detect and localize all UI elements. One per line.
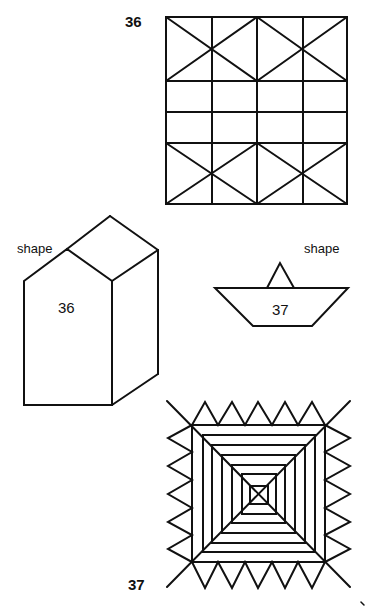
boat-number: 37 [272,302,289,317]
sawtooth-right [325,425,350,562]
grid-figure [166,17,347,204]
boat-shape-label: shape [304,242,339,255]
house-roof-eave [112,250,158,281]
square-pattern-number: 37 [128,577,145,592]
sawtooth-bottom [192,562,325,588]
line-drawings [0,0,366,607]
house-roof-ridge-right [110,216,158,250]
square-pattern-figure [167,401,350,588]
boat-sail [267,263,294,288]
stray-mark [361,602,364,605]
house-number: 36 [58,300,75,315]
house-roof-ridge-left [67,216,110,249]
grid-figure-number: 36 [125,14,142,29]
figure-sheet: 36 shape 36 shape 37 37 [0,0,366,607]
sawtooth-top [192,402,325,425]
house-front-face [24,249,112,405]
house-shape-label: shape [17,242,52,255]
sawtooth-left [168,425,192,562]
house-bottom-edge [112,374,158,405]
